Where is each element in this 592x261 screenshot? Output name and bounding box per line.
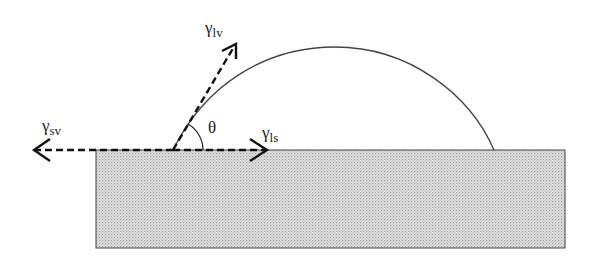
theta-arc bbox=[188, 124, 203, 150]
gamma-ls-label: γls bbox=[261, 123, 278, 145]
substrate bbox=[96, 150, 565, 248]
droplet-profile bbox=[173, 47, 494, 150]
contact-angle-diagram: γlv γsv θ γls bbox=[0, 0, 592, 261]
gamma-lv-label: γlv bbox=[204, 18, 223, 40]
gamma-sv-label: γsv bbox=[41, 116, 62, 138]
gamma-lv-arrow bbox=[173, 44, 236, 150]
theta-label: θ bbox=[208, 118, 216, 137]
